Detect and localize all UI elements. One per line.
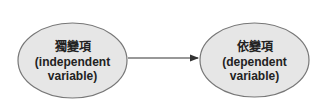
dependent-title: 依變項 xyxy=(204,40,305,55)
dependent-variable-label: 依變項 (dependent variable) xyxy=(204,40,305,84)
independent-english-line2: variable) xyxy=(22,69,123,84)
independent-title: 獨變項 xyxy=(22,40,123,55)
independent-variable-label: 獨變項 (independent variable) xyxy=(22,40,123,84)
independent-english-line1: (independent xyxy=(22,55,123,70)
dependent-english-line1: (dependent xyxy=(204,55,305,70)
dependent-english-line2: variable) xyxy=(204,69,305,84)
